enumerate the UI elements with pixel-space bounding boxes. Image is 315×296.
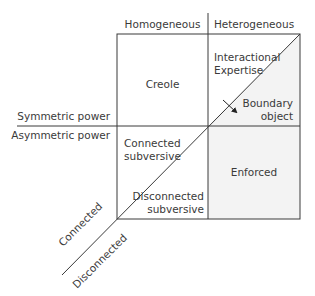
column-header-homogeneous: Homogeneous — [117, 18, 208, 31]
cell-interactional-expertise-line2: Expertise — [214, 64, 263, 77]
cell-boundary-object-line2: object — [230, 110, 293, 123]
cell-connected-subversive-line1: Connected — [124, 137, 181, 150]
cell-interactional-expertise-line1: Interactional — [214, 51, 280, 64]
cell-enforced: Enforced — [208, 166, 300, 179]
column-header-heterogeneous: Heterogeneous — [208, 18, 300, 31]
row-header-asymmetric-power: Asymmetric power — [0, 129, 110, 142]
cell-disconnected-subversive-line1: Disconnected — [130, 190, 204, 203]
cell-creole: Creole — [117, 78, 208, 91]
cell-boundary-object-line1: Boundary — [230, 97, 293, 110]
cell-disconnected-subversive-line2: subversive — [130, 203, 204, 216]
row-header-symmetric-power: Symmetric power — [0, 110, 110, 123]
cell-connected-subversive-line2: subversive — [124, 150, 181, 163]
